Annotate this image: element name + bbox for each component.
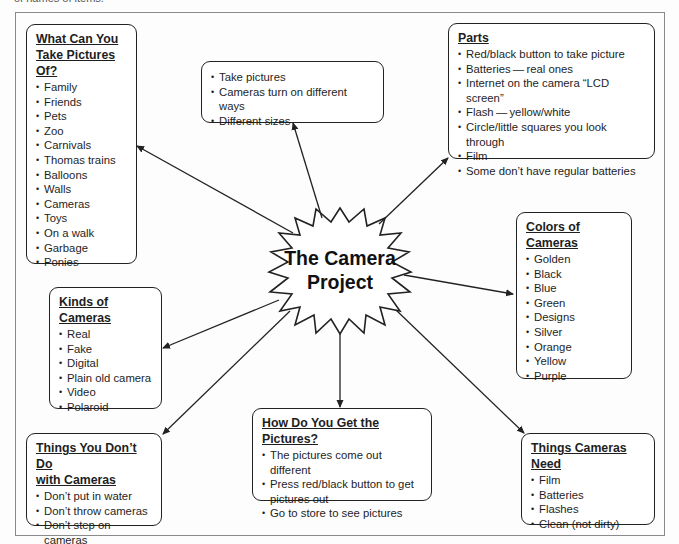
list-item: Some don’t have regular batteries [458, 164, 646, 179]
item-list: Golden Black Blue Green Designs Silver O… [526, 252, 623, 383]
list-item: Zoo [36, 124, 128, 139]
list-item: Video [59, 385, 153, 400]
list-item: Press red/black button to get pictures o… [262, 477, 423, 506]
list-item: Balloons [36, 168, 128, 183]
list-item: Red/black button to take picture [458, 47, 646, 62]
box-title: How Do You Get the Pictures? [262, 415, 423, 447]
list-item: Internet on the camera “LCD screen” [458, 76, 646, 105]
item-list: Red/black button to take picture Batteri… [458, 47, 646, 178]
item-list: Take pictures Cameras turn on different … [211, 70, 375, 128]
list-item: Flashes [531, 502, 646, 517]
item-list: Don’t put in water Don’t throw cameras D… [36, 489, 153, 544]
box-colors: Colors of Cameras Golden Black Blue Gree… [516, 212, 632, 379]
item-list: Real Fake Digital Plain old camera Video… [59, 327, 153, 415]
box-title: Colors of Cameras [526, 219, 623, 251]
box-title: Kinds of Cameras [59, 294, 153, 326]
box-parts: Parts Red/black button to take picture B… [448, 23, 655, 159]
box-get-pictures: How Do You Get the Pictures? The picture… [252, 408, 432, 501]
arrow-to-colors [404, 275, 513, 294]
item-list: The pictures come out different Press re… [262, 448, 423, 521]
list-item: Cameras [36, 197, 128, 212]
list-item: Don’t put in water [36, 489, 153, 504]
list-item: Film [458, 149, 646, 164]
list-item: The pictures come out different [262, 448, 423, 477]
list-item: Batteries [531, 488, 646, 503]
list-item: Take pictures [211, 70, 375, 85]
list-item: Circle/little squares you look through [458, 120, 646, 149]
box-title: Parts [458, 30, 646, 46]
list-item: Ponies [36, 255, 128, 270]
list-item: Walls [36, 182, 128, 197]
list-item: Clean (not dirty) [531, 517, 646, 532]
item-list: Family Friends Pets Zoo Carnivals Thomas… [36, 80, 128, 270]
box-title: Things Cameras Need [531, 440, 646, 472]
list-item: Green [526, 296, 623, 311]
list-item: Silver [526, 325, 623, 340]
box-title: What Can You Take Pictures Of? [36, 31, 128, 79]
list-item: Garbage [36, 241, 128, 256]
arrow-to-general [293, 123, 322, 218]
list-item: Different sizes [211, 114, 375, 129]
box-take-pictures-of: What Can You Take Pictures Of? Family Fr… [26, 24, 137, 264]
box-kinds: Kinds of Cameras Real Fake Digital Plain… [49, 287, 162, 409]
list-item: Black [526, 267, 623, 282]
arrow-to-kinds [163, 300, 279, 348]
list-item: Pets [36, 109, 128, 124]
list-item: On a walk [36, 226, 128, 241]
list-item: Thomas trains [36, 153, 128, 168]
list-item: Designs [526, 310, 623, 325]
list-item: Carnivals [36, 138, 128, 153]
list-item: Film [531, 473, 646, 488]
list-item: Purple [526, 369, 623, 384]
box-general: Take pictures Cameras turn on different … [201, 61, 384, 123]
arrow-to-parts [379, 158, 448, 224]
box-dont-do: Things You Don’t Do with Cameras Don’t p… [26, 433, 162, 526]
list-item: Cameras turn on different ways [211, 85, 375, 114]
item-list: Film Batteries Flashes Clean (not dirty) [531, 473, 646, 531]
list-item: Plain old camera [59, 371, 153, 386]
list-item: Digital [59, 356, 153, 371]
list-item: Golden [526, 252, 623, 267]
arrow-to-take-pictures-of [137, 146, 293, 233]
list-item: Yellow [526, 354, 623, 369]
box-title: Things You Don’t Do with Cameras [36, 440, 153, 488]
list-item: Family [36, 80, 128, 95]
list-item: Don’t throw cameras [36, 504, 153, 519]
list-item: Go to store to see pictures [262, 506, 423, 521]
list-item: Don’t step on cameras [36, 518, 153, 544]
center-title-line-1: The Camera [268, 246, 412, 270]
list-item: Real [59, 327, 153, 342]
list-item: Polaroid [59, 400, 153, 415]
list-item: Batteries — real ones [458, 62, 646, 77]
box-needs: Things Cameras Need Film Batteries Flash… [521, 433, 655, 525]
list-item: Friends [36, 95, 128, 110]
center-title: The Camera Project [268, 246, 412, 294]
list-item: Toys [36, 211, 128, 226]
list-item: Blue [526, 281, 623, 296]
list-item: Fake [59, 342, 153, 357]
list-item: Flash — yellow/white [458, 105, 646, 120]
center-title-line-2: Project [268, 270, 412, 294]
list-item: Orange [526, 340, 623, 355]
